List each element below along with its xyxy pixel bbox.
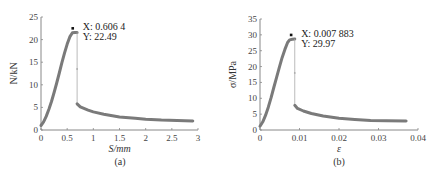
x-tick-label: 0.02 — [331, 133, 347, 143]
x-tick-label: 2.5 — [166, 133, 178, 143]
y-tick-label: 10 — [248, 93, 258, 103]
y-axis-title-b: σ/MPa — [227, 60, 238, 88]
x-tick-label: 1.5 — [114, 133, 126, 143]
datatip-y-a: Y: 22.49 — [83, 31, 117, 42]
panel-caption-b: (b) — [333, 156, 345, 168]
x-axis-title-a: S/mm — [108, 143, 130, 154]
y-tick-label: 20 — [248, 62, 258, 72]
panel-caption-a: (a) — [114, 156, 125, 168]
x-tick-label: 0 — [258, 133, 263, 143]
datatip-y-b: Y: 29.97 — [301, 38, 335, 49]
peak-marker-a[interactable] — [71, 27, 74, 30]
y-tick-label: 25 — [29, 12, 39, 22]
curve-rising-a — [41, 32, 77, 125]
x-tick-label: 0.04 — [410, 133, 426, 143]
x-tick-label: 0.01 — [292, 133, 308, 143]
curve-softening-a — [77, 104, 193, 121]
x-tick-label: 3 — [196, 133, 201, 143]
y-tick-label: 10 — [29, 80, 39, 90]
y-tick-label: 35 — [248, 14, 258, 24]
x-axis-title-b: ε — [337, 143, 341, 154]
curve-rising-b — [260, 39, 295, 126]
curve-softening-b — [295, 105, 406, 121]
chart-figure: 00.511.522.530510152025X: 0.606 4Y: 22.4… — [0, 0, 437, 177]
y-axis-title-a: N/kN — [8, 62, 19, 84]
y-tick-label: 0 — [253, 125, 258, 135]
y-tick-label: 5 — [253, 109, 258, 119]
y-tick-label: 15 — [29, 57, 39, 67]
x-tick-label: 0.03 — [371, 133, 387, 143]
x-tick-label: 0.5 — [62, 133, 74, 143]
x-tick-label: 0 — [39, 133, 44, 143]
y-tick-label: 0 — [34, 125, 39, 135]
y-tick-label: 5 — [34, 102, 39, 112]
y-tick-label: 30 — [248, 30, 258, 40]
y-tick-label: 25 — [248, 46, 258, 56]
y-tick-label: 15 — [248, 77, 258, 87]
peak-marker-b[interactable] — [290, 34, 293, 37]
x-tick-label: 2 — [143, 133, 148, 143]
x-tick-label: 1 — [91, 133, 96, 143]
y-tick-label: 20 — [29, 35, 39, 45]
